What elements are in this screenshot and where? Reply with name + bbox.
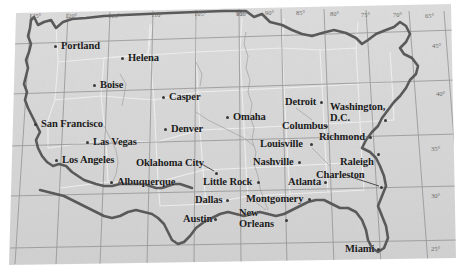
- city-label-line2: Orleans: [239, 218, 274, 229]
- city-label[interactable]: Albuquerque: [117, 177, 175, 187]
- longitude-tick-label: 90°: [265, 9, 274, 16]
- latitude-tick-label: 35°: [431, 145, 440, 152]
- city-label[interactable]: Dallas: [195, 195, 222, 205]
- city-label[interactable]: Los Angeles: [62, 155, 114, 165]
- city-label-line2: D.C.: [330, 112, 350, 123]
- city-label[interactable]: Washington,D.C.: [330, 102, 385, 123]
- city-label[interactable]: Montgomery: [246, 194, 303, 204]
- city-label[interactable]: Helena: [128, 53, 159, 63]
- city-label[interactable]: Oklahoma City: [136, 158, 204, 168]
- city-label[interactable]: Nashville: [253, 157, 294, 167]
- city-label[interactable]: Casper: [169, 92, 200, 102]
- longitude-tick-label: 110°: [151, 11, 163, 18]
- usa-cities-map: PortlandHelenaBoiseCasperSan FranciscoDe…: [0, 0, 461, 272]
- longitude-tick-label: 80°: [330, 10, 339, 17]
- longitude-tick-label: 65°: [425, 12, 434, 19]
- city-label[interactable]: Louisville: [260, 139, 303, 149]
- city-label[interactable]: Charleston: [316, 170, 365, 180]
- city-label[interactable]: Raleigh: [340, 157, 374, 167]
- latitude-tick-label: 25°: [431, 245, 440, 252]
- city-label[interactable]: Denver: [171, 124, 203, 134]
- city-label[interactable]: Las Vegas: [93, 137, 137, 147]
- latitude-tick-label: 40°: [436, 90, 445, 97]
- city-label[interactable]: Little Rock: [203, 177, 252, 187]
- city-label[interactable]: NewOrleans: [239, 208, 274, 229]
- longitude-tick-label: 75°: [361, 11, 370, 18]
- city-label[interactable]: Miami: [345, 244, 374, 254]
- city-label[interactable]: Austin: [183, 214, 212, 224]
- city-label[interactable]: Atlanta: [288, 177, 321, 187]
- city-label[interactable]: Detroit: [285, 97, 316, 107]
- latitude-tick-label: 45°: [432, 42, 441, 49]
- longitude-tick-label: 105°: [194, 10, 206, 17]
- city-label[interactable]: Boise: [100, 80, 123, 90]
- latitude-tick-label: 30°: [431, 192, 440, 199]
- city-label[interactable]: San Francisco: [41, 119, 103, 129]
- longitude-tick-label: 115°: [108, 12, 120, 19]
- city-label[interactable]: Columbus: [282, 121, 327, 131]
- city-label[interactable]: Richmond: [319, 132, 365, 142]
- longitude-tick-label: 125°: [29, 12, 41, 19]
- longitude-tick-label: 120°: [65, 12, 77, 19]
- longitude-tick-label: 85°: [296, 9, 305, 16]
- city-label[interactable]: Omaha: [233, 112, 266, 122]
- city-label[interactable]: Portland: [61, 41, 100, 51]
- longitude-tick-label: 70°: [393, 11, 402, 18]
- longitude-tick-label: 95°: [236, 10, 245, 17]
